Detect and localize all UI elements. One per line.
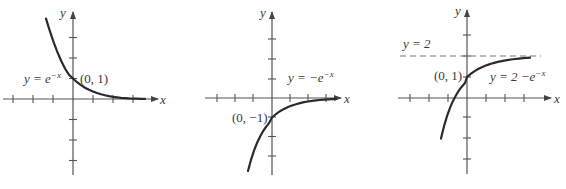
curve-exp-neg-x — [46, 19, 145, 99]
graph-neg-exp-neg-x: x y (0, −1) y = −e−x — [205, 5, 350, 175]
y-axis-label: y — [58, 5, 66, 20]
x-axis-label: x — [553, 91, 560, 106]
graph-exp-neg-x: x y (0, 1) y = e−x — [3, 5, 166, 175]
curve-label: y = 2 −e−x — [488, 68, 545, 84]
graph-two-minus-exp-neg-x: x y y = 2 (0, 1) y = 2 −e−x — [398, 3, 560, 174]
point-label: (0, −1) — [232, 110, 268, 125]
y-axis-label: y — [258, 5, 266, 20]
y-axis-label: y — [453, 3, 461, 18]
x-axis-label: x — [343, 91, 350, 106]
curve-label: y = −e−x — [286, 69, 334, 85]
point-label: (0, 1) — [434, 68, 462, 83]
point-label: (0, 1) — [80, 71, 108, 86]
curve-label: y = e−x — [22, 70, 61, 86]
asymptote-label: y = 2 — [401, 36, 431, 51]
figure: x y (0, 1) y = e−x x y (0, −1) y = −e− — [0, 0, 566, 189]
x-axis-label: x — [159, 92, 166, 107]
